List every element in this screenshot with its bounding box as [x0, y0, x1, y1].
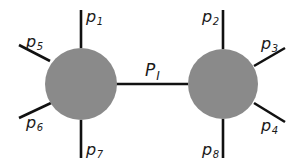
leg-label-main: p [201, 7, 212, 26]
leg-label-main: p [85, 140, 96, 159]
leg-label-main: p [25, 32, 36, 51]
left-vertex [45, 48, 117, 120]
leg-label-p2: p2 [201, 7, 219, 27]
propagator-label: PI [145, 60, 160, 83]
leg-label-sub: 5 [37, 41, 43, 52]
leg-label-sub: 8 [213, 149, 219, 160]
leg-label-p1: p1 [85, 7, 103, 27]
leg-label-p6: p6 [25, 113, 43, 133]
leg-label-sub: 2 [213, 16, 219, 27]
leg-label-p7: p7 [85, 140, 104, 160]
leg-label-main: p [201, 140, 212, 159]
leg-label-main: p [85, 7, 96, 26]
leg-label-p3: p3 [260, 34, 278, 54]
leg-label-p5: p5 [25, 32, 43, 52]
leg-label-sub: 3 [272, 43, 278, 54]
leg-label-sub: 1 [97, 16, 103, 27]
leg-label-main: p [260, 116, 271, 135]
propagator-label-main: P [145, 60, 156, 80]
leg-label-p4: p4 [260, 116, 278, 136]
right-vertex [188, 49, 258, 119]
leg-label-main: p [260, 34, 271, 53]
leg-label-sub: 7 [97, 149, 104, 160]
leg-label-sub: 4 [272, 125, 278, 136]
propagator-label-sub: I [156, 69, 160, 83]
leg-label-p8: p8 [201, 140, 219, 160]
leg-label-sub: 6 [37, 122, 43, 133]
feynman-diagram: p1p5p6p7p2p3p4p8 PI [0, 0, 302, 166]
leg-label-main: p [25, 113, 36, 132]
